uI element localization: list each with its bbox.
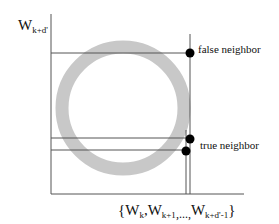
false-neighbor-label: false neighbor (198, 43, 261, 55)
y-axis-label: Wk+d' (18, 17, 48, 35)
x-axis-label: {Wk,Wk+1,...,Wk+d'-1} (118, 202, 235, 221)
false-neighbor-point (186, 49, 195, 58)
attractor-ring (62, 47, 184, 169)
true-neighbor-point-2 (182, 147, 191, 156)
true-neighbor-label: true neighbor (200, 139, 259, 151)
diagram-canvas: Wk+d' false neighbor true neighbor {Wk,W… (0, 0, 279, 224)
true-neighbor-point-1 (186, 135, 195, 144)
